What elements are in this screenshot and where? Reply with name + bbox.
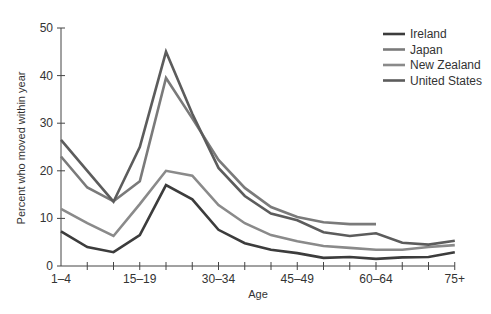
legend-label-united-states: United States [410,74,482,88]
x-tick-label: 1–4 [51,272,71,286]
data-lines [61,52,455,259]
x-axis-title: Age [248,288,268,300]
y-tick-label: 30 [40,116,54,130]
x-tick-label: 45–49 [281,272,315,286]
legend-label-new-zealand: New Zealand [410,58,481,72]
x-tick-label: 15–19 [123,272,157,286]
legend-label-ireland: Ireland [410,27,447,41]
y-tick-label: 10 [40,211,54,225]
y-tick-label: 0 [46,259,53,273]
y-tick-label: 20 [40,164,54,178]
y-tick-label: 40 [40,69,54,83]
legend-label-japan: Japan [410,43,443,57]
x-tick-label: 75+ [445,272,465,286]
x-tick-label: 30–34 [202,272,236,286]
line-chart: 010203040501–415–1930–3445–4960–6475+ Ir… [0,0,491,314]
x-tick-label: 60–64 [359,272,393,286]
y-axis-title: Percent who moved within year [15,71,27,224]
y-tick-label: 50 [40,21,54,35]
series-line-new-zealand [61,171,455,250]
series-line-japan [61,78,376,224]
legend: IrelandJapanNew ZealandUnited States [383,27,482,88]
